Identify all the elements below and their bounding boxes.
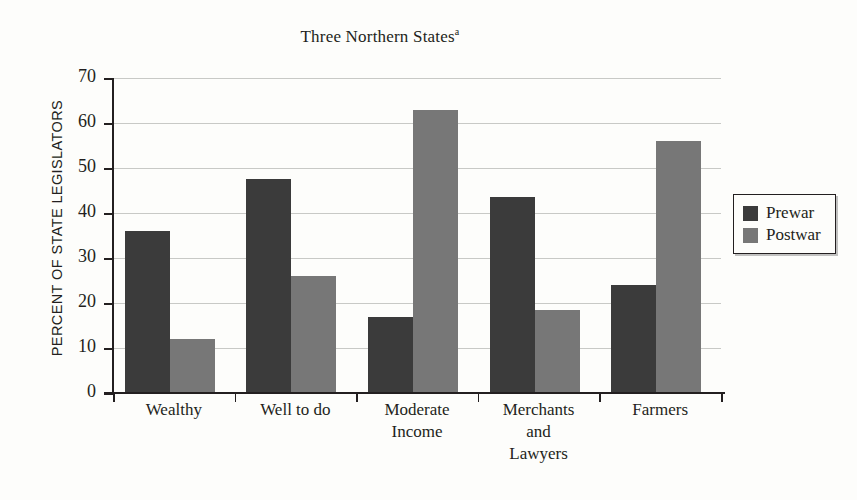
y-axis-tick — [104, 168, 113, 170]
y-axis-tick — [104, 123, 113, 125]
bar-prewar-2 — [368, 317, 413, 394]
category-label: Farmers — [599, 399, 721, 421]
y-axis-tick — [104, 258, 113, 260]
category-label-line: Lawyers — [478, 443, 600, 465]
y-axis-tick — [104, 303, 113, 305]
legend-item-postwar: Postwar — [743, 224, 821, 246]
plot-area — [113, 78, 721, 393]
legend-label: Prewar — [766, 203, 814, 223]
y-axis-tick-label: 50 — [56, 156, 96, 177]
bar-postwar-1 — [291, 276, 336, 393]
category-label-line: and — [478, 421, 600, 443]
category-label-line: Well to do — [235, 399, 357, 421]
y-axis-tick-label: 20 — [56, 291, 96, 312]
bar-chart-figure: Three Northern Statesa PERCENT OF STATE … — [0, 0, 857, 500]
category-label-line: Income — [356, 421, 478, 443]
category-label: MerchantsandLawyers — [478, 399, 600, 465]
legend-label: Postwar — [766, 225, 821, 245]
y-axis-tick — [104, 393, 113, 395]
legend-swatch-postwar — [743, 228, 758, 243]
y-axis-tick — [104, 348, 113, 350]
legend: PrewarPostwar — [733, 194, 836, 254]
category-label: Wealthy — [113, 399, 235, 421]
x-axis-line — [104, 392, 725, 394]
category-label: ModerateIncome — [356, 399, 478, 443]
y-axis-tick-label: 70 — [56, 66, 96, 87]
category-label-line: Wealthy — [113, 399, 235, 421]
category-label-line: Merchants — [478, 399, 600, 421]
category-label: Well to do — [235, 399, 357, 421]
y-axis-tick — [104, 213, 113, 215]
y-axis-tick — [104, 78, 113, 80]
bar-prewar-0 — [125, 231, 170, 393]
bar-postwar-2 — [413, 110, 458, 394]
chart-title-text: Three Northern States — [301, 27, 455, 46]
y-axis-tick-label: 0 — [56, 381, 96, 402]
gridline — [113, 78, 721, 79]
bar-postwar-0 — [170, 339, 215, 393]
category-label-line: Farmers — [599, 399, 721, 421]
y-axis-tick-label: 40 — [56, 201, 96, 222]
chart-title: Three Northern Statesa — [0, 26, 760, 47]
bar-prewar-1 — [246, 179, 291, 393]
bar-postwar-3 — [535, 310, 580, 393]
legend-swatch-prewar — [743, 206, 758, 221]
legend-item-prewar: Prewar — [743, 202, 821, 224]
x-axis-tick — [721, 393, 723, 402]
bar-prewar-4 — [611, 285, 656, 393]
y-axis-tick-label: 10 — [56, 336, 96, 357]
y-axis-tick-label: 30 — [56, 246, 96, 267]
category-label-line: Moderate — [356, 399, 478, 421]
chart-title-footnote-marker: a — [455, 26, 460, 37]
bar-prewar-3 — [490, 197, 535, 393]
y-axis-tick-label: 60 — [56, 111, 96, 132]
bar-postwar-4 — [656, 141, 701, 393]
